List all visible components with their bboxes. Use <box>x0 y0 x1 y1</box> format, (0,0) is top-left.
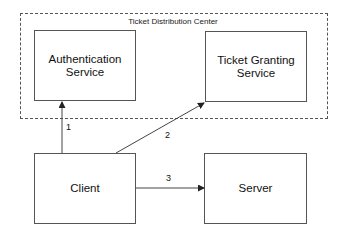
edge-3-label: 3 <box>166 173 171 183</box>
edge-1-label: 1 <box>66 122 71 132</box>
edge-2-label: 2 <box>165 130 170 140</box>
edge-2-arrow <box>116 103 204 153</box>
edges-layer <box>0 0 341 241</box>
